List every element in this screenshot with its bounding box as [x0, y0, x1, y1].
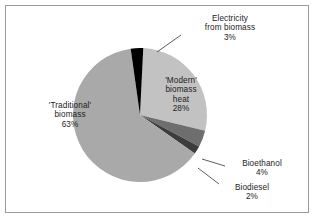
slice-label-electricity-from-biomass: Electricity from biomass 3% [178, 14, 282, 42]
slice-label-bioethanol-line1: Bioethanol [224, 159, 300, 168]
slice-label-electricity-line2: from biomass [178, 23, 282, 32]
slice-label-electricity-value: 3% [178, 33, 282, 42]
slice-label-traditional-line1: 'Traditional' [28, 101, 112, 110]
slice-label-modern-line3: heat [146, 95, 216, 104]
slice-label-traditional-biomass: 'Traditional' biomass 63% [28, 101, 112, 129]
leader-line-bioethanol [202, 159, 225, 166]
slice-label-traditional-value: 63% [28, 120, 112, 129]
slice-label-biodiesel-value: 2% [216, 192, 288, 201]
slice-label-bioethanol-value: 4% [224, 168, 300, 177]
slice-label-bioethanol: Bioethanol 4% [224, 159, 300, 178]
slice-label-electricity-line1: Electricity [178, 14, 282, 23]
slice-label-modern-line1: 'Modern' [146, 76, 216, 85]
slice-label-traditional-line2: biomass [28, 110, 112, 119]
pie-chart-figure: 'Traditional' biomass 63% 'Modern' bioma… [0, 0, 319, 224]
slice-label-modern-value: 28% [146, 104, 216, 113]
leader-line-biodiesel [198, 168, 219, 184]
slice-label-biodiesel-line1: Biodiesel [216, 183, 288, 192]
slice-label-modern-line2: biomass [146, 85, 216, 94]
slice-label-biodiesel: Biodiesel 2% [216, 183, 288, 202]
slice-label-modern-biomass-heat: 'Modern' biomass heat 28% [146, 76, 216, 114]
